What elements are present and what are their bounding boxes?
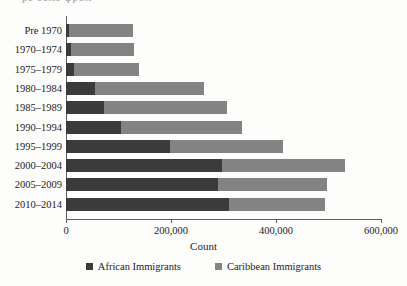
bar-segment-african [66, 178, 218, 191]
x-axis-title: Count [0, 240, 407, 252]
legend-swatch-caribbean-icon [215, 263, 222, 270]
legend-swatch-african-icon [86, 263, 93, 270]
bar-row [0, 140, 407, 153]
bar-row [0, 198, 407, 211]
stacked-bar-chart: ре соме фром Pre 19701970–19741975–19791… [0, 0, 407, 286]
x-axis-tick-label: 600,000 [364, 225, 398, 236]
x-axis-line [66, 219, 382, 220]
x-axis-tick-mark [171, 219, 172, 223]
x-axis-tick-mark [66, 219, 67, 223]
chart-legend: African Immigrants Caribbean Immigrants [0, 261, 407, 272]
bar-row [0, 101, 407, 114]
legend-item-caribbean: Caribbean Immigrants [215, 261, 321, 272]
bar-segment-caribbean [74, 63, 139, 76]
bar-row [0, 24, 407, 37]
bar-segment-caribbean [95, 82, 204, 95]
legend-item-african: African Immigrants [86, 261, 181, 272]
bar-segment-caribbean [229, 198, 325, 211]
bar-row [0, 178, 407, 191]
x-axis-tick-mark [276, 219, 277, 223]
legend-label-african: African Immigrants [98, 261, 181, 272]
bar-segment-caribbean [69, 24, 133, 37]
bar-row [0, 159, 407, 172]
bar-segment-african [66, 159, 222, 172]
bar-segment-african [66, 198, 229, 211]
bar-row [0, 82, 407, 95]
bar-segment-african [66, 140, 170, 153]
bar-row [0, 43, 407, 56]
bar-segment-caribbean [104, 101, 227, 114]
x-axis-tick-label: 0 [63, 225, 68, 236]
bar-segment-african [66, 101, 104, 114]
bar-segment-caribbean [170, 140, 283, 153]
bar-segment-african [66, 121, 121, 134]
bar-row [0, 121, 407, 134]
bar-segment-caribbean [71, 43, 134, 56]
x-axis-tick-label: 200,000 [154, 225, 188, 236]
legend-label-caribbean: Caribbean Immigrants [227, 261, 321, 272]
bar-segment-african [66, 82, 95, 95]
x-axis-tick-mark [381, 219, 382, 223]
bar-segment-african [66, 63, 74, 76]
bar-segment-caribbean [121, 121, 242, 134]
bar-segment-caribbean [218, 178, 327, 191]
x-axis-tick-label: 400,000 [259, 225, 293, 236]
bar-segment-caribbean [222, 159, 345, 172]
bar-row [0, 63, 407, 76]
plot-area: Pre 19701970–19741975–19791980–19841985–… [0, 0, 407, 286]
